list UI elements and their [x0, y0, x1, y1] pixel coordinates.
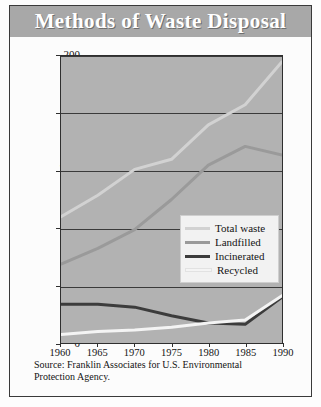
legend-label: Total waste — [215, 222, 265, 234]
x-tick-label-1985: 1985 — [226, 347, 266, 358]
legend-label: Recycled — [217, 264, 258, 276]
x-tick-label-1990: 1990 — [263, 347, 303, 358]
legend-swatch-icon — [185, 241, 210, 244]
x-tick-label-1975: 1975 — [152, 347, 192, 358]
series-lines — [61, 56, 282, 343]
legend-item-incinerated: Incinerated — [185, 249, 274, 263]
x-tick-label-1980: 1980 — [189, 347, 229, 358]
legend-item-landfilled: Landfilled — [185, 235, 274, 249]
series-line-total-waste — [61, 62, 282, 217]
legend-label: Incinerated — [215, 250, 264, 262]
legend: Total wasteLandfilledIncineratedRecycled — [180, 215, 279, 283]
x-tick-label-1970: 1970 — [114, 347, 154, 358]
x-tick-mark-1990 — [283, 343, 284, 347]
source-line-1: Source: Franklin Associates for U.S. Env… — [34, 359, 242, 370]
legend-swatch-icon — [185, 268, 212, 272]
legend-item-recycled: Recycled — [185, 263, 274, 277]
plot-area — [60, 55, 283, 344]
x-tick-label-1965: 1965 — [77, 347, 117, 358]
legend-swatch-icon — [185, 255, 210, 258]
source-note: Source: Franklin Associates for U.S. Env… — [34, 359, 284, 383]
legend-item-total-waste: Total waste — [185, 221, 274, 235]
legend-label: Landfilled — [215, 236, 261, 248]
page-title: Methods of Waste Disposal — [35, 9, 287, 34]
chart-area: Millions of tons 04080120160200 19601965… — [10, 37, 311, 396]
legend-swatch-icon — [185, 227, 210, 230]
x-tick-label-1960: 1960 — [40, 347, 80, 358]
source-line-2: Protection Agency. — [34, 371, 110, 382]
series-line-incinerated — [61, 297, 282, 324]
waste-disposal-figure: Methods of Waste Disposal Millions of to… — [0, 0, 321, 407]
title-banner: Methods of Waste Disposal — [10, 6, 311, 37]
